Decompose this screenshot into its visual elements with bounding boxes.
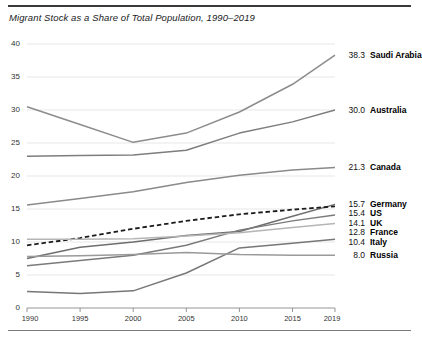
legend-value: 30.0 bbox=[341, 106, 365, 115]
y-axis-tick-label: 35 bbox=[2, 72, 20, 81]
series-line-saudi-arabia bbox=[27, 55, 335, 142]
x-axis-tick-label: 2005 bbox=[166, 314, 206, 323]
x-axis-tick-label: 2015 bbox=[273, 314, 313, 323]
y-axis-tick-label: 15 bbox=[2, 204, 20, 213]
y-axis-tick-label: 5 bbox=[2, 270, 20, 279]
legend-label: Australia bbox=[370, 106, 406, 115]
x-axis-tick-label: 2000 bbox=[113, 314, 153, 323]
gridlines bbox=[27, 44, 335, 308]
legend-entry: 8.0Russia bbox=[341, 251, 398, 260]
y-axis-tick-label: 25 bbox=[2, 138, 20, 147]
x-axis-tick-label: 1995 bbox=[60, 314, 100, 323]
y-axis-tick-label: 30 bbox=[2, 105, 20, 114]
axis-lines bbox=[27, 308, 335, 312]
legend-value: 10.4 bbox=[341, 238, 365, 247]
y-axis-tick-label: 20 bbox=[2, 171, 20, 180]
series-line-canada bbox=[27, 167, 335, 205]
legend-entry: 10.4Italy bbox=[341, 238, 387, 247]
legend-value: 8.0 bbox=[341, 251, 365, 260]
legend-value: 38.3 bbox=[341, 51, 365, 60]
legend-entry: 38.3Saudi Arabia bbox=[341, 51, 422, 60]
legend-label: Saudi Arabia bbox=[370, 51, 422, 60]
legend-label: Russia bbox=[370, 251, 398, 260]
series-line-france bbox=[27, 224, 335, 240]
bottom-rule bbox=[8, 330, 411, 331]
series-line-germany bbox=[27, 204, 335, 258]
legend-label: Italy bbox=[370, 238, 387, 247]
legend-label: Canada bbox=[370, 163, 401, 172]
series-lines bbox=[27, 55, 335, 293]
y-axis-tick-label: 10 bbox=[2, 237, 20, 246]
legend-value: 21.3 bbox=[341, 163, 365, 172]
x-axis-tick-label: 2010 bbox=[219, 314, 259, 323]
series-line-australia bbox=[27, 110, 335, 156]
x-axis-tick-label: 2019 bbox=[312, 314, 352, 323]
y-axis-tick-label: 40 bbox=[2, 39, 20, 48]
series-line-italy bbox=[27, 239, 335, 293]
series-line-russia bbox=[27, 253, 335, 257]
x-axis-tick-label: 1990 bbox=[10, 314, 50, 323]
legend-entry: 21.3Canada bbox=[341, 163, 401, 172]
y-axis-tick-label: 0 bbox=[2, 303, 20, 312]
legend-entry: 30.0Australia bbox=[341, 106, 406, 115]
